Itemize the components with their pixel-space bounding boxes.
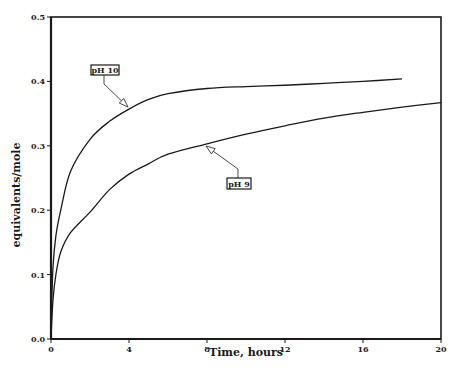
leader-line xyxy=(104,84,122,101)
leader-line xyxy=(213,151,238,169)
y-tick-label: 0.2 xyxy=(31,205,45,215)
y-axis-ticks: 0.00.10.20.30.40.5 xyxy=(31,12,51,344)
series-line-ph-10 xyxy=(51,79,402,326)
x-axis-title: Time, hours xyxy=(209,346,283,359)
data-series xyxy=(51,79,441,339)
y-tick-label: 0.3 xyxy=(31,141,45,151)
x-tick-label: 0 xyxy=(48,344,54,354)
y-tick-label: 0.0 xyxy=(31,334,45,344)
y-tick-label: 0.4 xyxy=(31,76,45,86)
series-line-ph-9 xyxy=(51,103,441,339)
x-tick-label: 20 xyxy=(435,344,447,354)
callout-label: pH 9 xyxy=(228,179,250,189)
y-tick-label: 0.1 xyxy=(31,270,45,280)
callout-label: pH 10 xyxy=(91,65,119,75)
callout-ph10: pH 10 xyxy=(91,65,128,107)
arrowhead-icon xyxy=(206,146,215,154)
callout-ph9: pH 9 xyxy=(206,146,251,189)
y-axis-title: equivalents/mole xyxy=(10,142,23,247)
y-tick-label: 0.5 xyxy=(31,12,45,22)
x-tick-label: 4 xyxy=(126,344,132,354)
series-callouts: pH 10pH 9 xyxy=(91,65,251,189)
x-tick-label: 16 xyxy=(357,344,369,354)
chart: 048121620 0.00.10.20.30.40.5 pH 10pH 9 T… xyxy=(0,0,455,379)
